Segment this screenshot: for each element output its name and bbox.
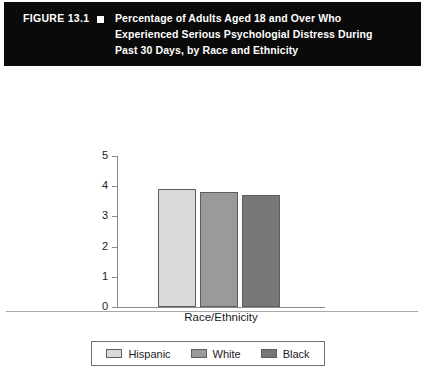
legend-swatch-icon — [106, 349, 122, 358]
figure-number-label: FIGURE 13.1 — [23, 12, 89, 24]
y-axis-tick-label: 1 — [86, 271, 108, 282]
legend-label: Hispanic — [128, 348, 170, 360]
y-axis-tick-label: 2 — [86, 241, 108, 252]
bar-hispanic — [158, 189, 196, 307]
figure-title-line-2: Experienced Serious Psychologial Distres… — [115, 26, 415, 42]
y-axis-tick-mark — [112, 307, 117, 308]
y-axis-tick-mark — [112, 247, 117, 248]
y-axis-tick-mark — [112, 186, 117, 187]
y-axis-tick-mark — [112, 277, 117, 278]
legend-item-white: White — [191, 348, 241, 360]
y-axis-tick-mark — [112, 156, 117, 157]
bar-white — [200, 192, 238, 307]
square-bullet-icon — [97, 16, 104, 23]
bar-black — [242, 195, 280, 307]
x-axis-line — [117, 307, 325, 308]
legend-item-hispanic: Hispanic — [106, 348, 170, 360]
figure-title-line-1: Percentage of Adults Aged 18 and Over Wh… — [115, 10, 415, 26]
y-axis-tick-label: 5 — [86, 150, 108, 161]
bottom-divider — [6, 311, 418, 312]
figure-header-band: FIGURE 13.1 Percentage of Adults Aged 18… — [4, 2, 421, 66]
legend-swatch-icon — [261, 349, 277, 358]
chart-legend: HispanicWhiteBlack — [91, 341, 325, 366]
figure-title: Percentage of Adults Aged 18 and Over Wh… — [115, 10, 415, 58]
legend-label: Black — [283, 348, 310, 360]
legend-item-black: Black — [261, 348, 310, 360]
y-axis-tick-label: 3 — [86, 210, 108, 221]
legend-label: White — [213, 348, 241, 360]
y-axis-line — [117, 156, 118, 308]
figure-title-line-3: Past 30 Days, by Race and Ethnicity — [115, 42, 415, 58]
legend-swatch-icon — [191, 349, 207, 358]
x-axis-label: Race/Ethnicity — [117, 311, 325, 323]
y-axis-tick-label: 4 — [86, 180, 108, 191]
chart-plot-area: 012345 Race/Ethnicity HispanicWhiteBlack — [0, 66, 425, 318]
y-axis-tick-mark — [112, 216, 117, 217]
